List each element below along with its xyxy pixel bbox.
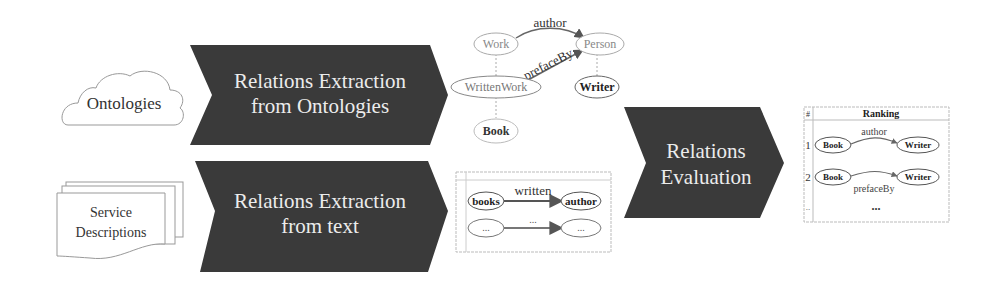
step3-line2: Evaluation bbox=[661, 165, 752, 189]
rank-index: 1 bbox=[805, 139, 811, 151]
rank-edge: prefaceBy bbox=[853, 183, 894, 194]
edge-author-label: author bbox=[533, 15, 567, 30]
text-row1-to: author bbox=[565, 195, 597, 207]
node-work: Work bbox=[483, 37, 509, 51]
rank-to: Writer bbox=[905, 140, 931, 150]
step1-line1: Relations Extraction bbox=[234, 69, 407, 93]
text-row2-edge: ... bbox=[529, 214, 537, 225]
step-extract-from-ontologies: Relations Extraction from Ontologies bbox=[190, 45, 448, 145]
rank-edge: author bbox=[861, 126, 887, 137]
ranking-col-title: Ranking bbox=[863, 108, 900, 119]
rank-from: Book bbox=[823, 172, 843, 182]
step-extract-from-text: Relations Extraction from text bbox=[195, 161, 448, 272]
text-row2-to: ... bbox=[577, 222, 585, 233]
text-row2-from: ... bbox=[482, 222, 490, 233]
ontologies-label: Ontologies bbox=[87, 94, 162, 113]
edge-prefaceby-label: prefaceBy bbox=[521, 45, 576, 83]
ontologies-input: Ontologies bbox=[62, 71, 183, 125]
step3-line1: Relations bbox=[666, 139, 745, 163]
node-person: Person bbox=[584, 37, 617, 51]
service-descriptions-input: Service Descriptions bbox=[57, 182, 183, 259]
text-row1-edge: written bbox=[515, 183, 552, 198]
step2-line1: Relations Extraction bbox=[234, 189, 407, 213]
pipeline-diagram: Ontologies Service Descriptions Relation… bbox=[0, 0, 993, 284]
service-label-line1: Service bbox=[90, 205, 132, 220]
step2-line2: from text bbox=[281, 214, 359, 238]
document-stack-icon bbox=[57, 182, 183, 259]
text-graph: books written author ... ... ... bbox=[456, 172, 611, 252]
rank-ellipsis: ... bbox=[872, 199, 881, 213]
rank-to: Writer bbox=[905, 172, 931, 182]
rank-index: 2 bbox=[805, 171, 811, 183]
ranking-col-index: # bbox=[806, 110, 810, 119]
step-relations-evaluation: Relations Evaluation bbox=[624, 107, 784, 218]
step1-line2: from Ontologies bbox=[251, 94, 389, 118]
node-writer: Writer bbox=[579, 80, 615, 94]
ranking-table: # Ranking 1 Book author Writer 2 Book pr… bbox=[804, 107, 949, 222]
service-label-line2: Descriptions bbox=[76, 225, 147, 240]
rank-from: Book bbox=[823, 140, 843, 150]
rank-index: .. bbox=[806, 202, 811, 212]
node-book: Book bbox=[483, 124, 510, 138]
ontology-graph: author prefaceBy Work Person WrittenWork… bbox=[451, 15, 624, 143]
text-row1-from: books bbox=[472, 195, 500, 207]
node-writtenwork: WrittenWork bbox=[465, 80, 528, 94]
